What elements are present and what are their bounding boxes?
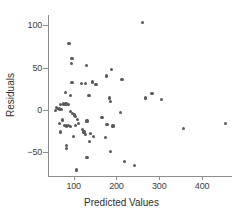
y-axis-tick-label: 100 [28,20,42,31]
plot-area [48,15,232,176]
data-point [182,127,185,130]
data-point [141,21,144,24]
x-axis-tick-label: 200 [109,181,123,192]
data-point [69,125,72,128]
data-point [61,118,64,121]
x-axis-tick-label: 300 [152,181,166,192]
data-point [70,57,73,60]
data-point [111,124,114,127]
data-point [104,136,107,139]
data-point [123,160,126,163]
y-axis-tick [43,25,48,26]
x-axis-title: Predicted Values [0,197,243,209]
data-point [109,100,112,103]
y-axis-tick [43,152,48,153]
data-point [64,91,67,94]
data-point [160,98,163,101]
data-point [59,130,62,133]
y-axis-tick [43,68,48,69]
y-axis-tick [43,110,48,111]
x-axis-tick-label: 400 [195,181,209,192]
x-axis-tick-label: 100 [66,181,80,192]
data-point [70,81,73,84]
x-axis-tick [159,176,160,180]
data-point [77,122,80,125]
data-point [105,74,108,77]
y-axis-tick-label: −50 [27,147,42,158]
y-axis-title: Residuals [5,45,17,145]
data-point [65,147,68,150]
data-point [80,82,83,85]
data-point [92,135,95,138]
y-axis-line [48,15,49,176]
data-point [85,119,88,122]
data-point [60,108,63,111]
data-point [72,135,75,138]
x-axis-tick [202,176,203,180]
data-point [70,62,73,65]
data-point [110,68,113,71]
data-point [76,118,79,121]
data-point [119,111,122,114]
data-point [87,94,90,97]
y-axis-tick-label: 50 [32,62,42,73]
scatter-plot-figure: 100200300400−50050100 Predicted Values R… [0,0,243,220]
data-point [150,92,153,95]
data-point [75,168,78,171]
data-point [100,116,103,119]
data-point [69,94,72,97]
data-point [67,42,70,45]
data-point [54,109,57,112]
data-point [84,82,87,85]
data-point [94,83,97,86]
data-point [67,103,70,106]
x-axis-tick [74,176,75,180]
data-point [109,150,112,153]
x-axis-line [48,176,232,177]
data-point [133,164,136,167]
data-point [88,140,91,143]
data-point [120,78,123,81]
data-point [85,64,88,67]
data-point [105,123,108,126]
x-axis-tick [116,176,117,180]
data-point [84,133,87,136]
data-point [224,122,227,125]
data-point [144,96,147,99]
data-point [85,156,88,159]
data-point [58,122,61,125]
y-axis-tick-label: 0 [37,104,42,115]
